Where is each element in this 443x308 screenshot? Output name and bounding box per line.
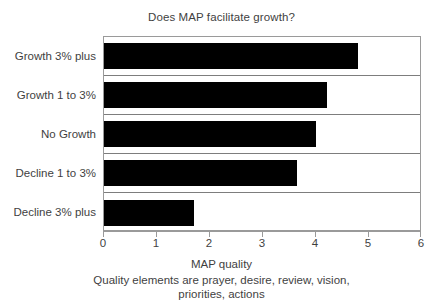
bar-row-decline-1-to-3 <box>104 154 420 193</box>
x-axis-tick-label-3: 3 <box>259 237 265 249</box>
bar-decline-3-plus[interactable] <box>104 200 194 226</box>
x-axis-tick-label-2: 2 <box>206 237 212 249</box>
x-axis-title: MAP quality <box>0 258 443 270</box>
x-axis-caption-line-2: priorities, actions <box>0 287 443 301</box>
x-axis-tick-label-1: 1 <box>153 237 159 249</box>
x-axis-tick-labels: 0123456 <box>103 237 421 253</box>
bar-row-growth-3-plus <box>104 37 420 76</box>
bar-decline-1-to-3[interactable] <box>104 160 297 186</box>
y-axis-label-decline-3-plus: Decline 3% plus <box>0 192 99 231</box>
y-axis-label-growth-3-plus: Growth 3% plus <box>0 36 99 75</box>
y-axis-label-growth-1-to-3: Growth 1 to 3% <box>0 75 99 114</box>
x-axis-tick-label-0: 0 <box>100 237 106 249</box>
bar-row-no-growth <box>104 115 420 154</box>
x-axis-tick-label-4: 4 <box>312 237 318 249</box>
bar-growth-3-plus[interactable] <box>104 43 358 69</box>
bar-chart-figure: Does MAP facilitate growth? Growth 3% pl… <box>0 0 443 308</box>
x-axis-tick-label-6: 6 <box>418 237 424 249</box>
bar-no-growth[interactable] <box>104 121 316 147</box>
x-axis-tick-label-5: 5 <box>365 237 371 249</box>
chart-title: Does MAP facilitate growth? <box>0 11 443 23</box>
y-axis-label-no-growth: No Growth <box>0 114 99 153</box>
bar-row-growth-1-to-3 <box>104 76 420 115</box>
y-axis-category-labels: Growth 3% plus Growth 1 to 3% No Growth … <box>0 36 99 231</box>
x-axis-caption: Quality elements are prayer, desire, rev… <box>0 273 443 301</box>
bar-growth-1-to-3[interactable] <box>104 82 327 108</box>
x-axis-caption-line-1: Quality elements are prayer, desire, rev… <box>0 273 443 287</box>
plot-area <box>103 36 421 231</box>
bar-row-decline-3-plus <box>104 193 420 232</box>
y-axis-label-decline-1-to-3: Decline 1 to 3% <box>0 153 99 192</box>
